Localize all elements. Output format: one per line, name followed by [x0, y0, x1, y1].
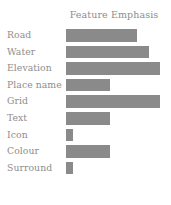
bar-fill: [66, 162, 73, 175]
bar-label: Road: [0, 28, 60, 41]
bar-row: Grid: [0, 93, 171, 110]
bar-track: [66, 129, 160, 142]
bar-label: Water: [0, 45, 60, 58]
bar-track: [66, 29, 160, 42]
bar-row: Surround: [0, 160, 171, 177]
bar-track: [66, 46, 160, 59]
bar-row: Colour: [0, 143, 171, 160]
feature-emphasis-chart: Feature Emphasis RoadWaterElevationPlace…: [0, 0, 171, 205]
bar-label: Icon: [0, 128, 60, 141]
bar-row: Text: [0, 110, 171, 127]
bar-fill: [66, 112, 110, 125]
bar-track: [66, 145, 160, 158]
bar-track: [66, 62, 160, 75]
bar-fill: [66, 79, 110, 92]
bar-fill: [66, 46, 149, 59]
bar-label: Text: [0, 111, 60, 124]
bar-track: [66, 162, 160, 175]
chart-title: Feature Emphasis: [62, 9, 166, 21]
bar-track: [66, 79, 160, 92]
bar-row: Road: [0, 27, 171, 44]
bar-label: Colour: [0, 144, 60, 157]
bar-label: Elevation: [0, 61, 60, 74]
bar-fill: [66, 95, 160, 108]
bar-row: Water: [0, 44, 171, 61]
bar-track: [66, 112, 160, 125]
bar-row: Place name: [0, 77, 171, 94]
bar-fill: [66, 62, 160, 75]
bar-row: Icon: [0, 127, 171, 144]
bar-track: [66, 95, 160, 108]
bar-plot-area: RoadWaterElevationPlace nameGridTextIcon…: [0, 27, 171, 199]
bar-fill: [66, 145, 110, 158]
bar-fill: [66, 129, 73, 142]
bar-fill: [66, 29, 137, 42]
bar-row: Elevation: [0, 60, 171, 77]
bar-label: Grid: [0, 94, 60, 107]
bar-label: Place name: [0, 78, 60, 91]
bar-label: Surround: [0, 161, 60, 174]
